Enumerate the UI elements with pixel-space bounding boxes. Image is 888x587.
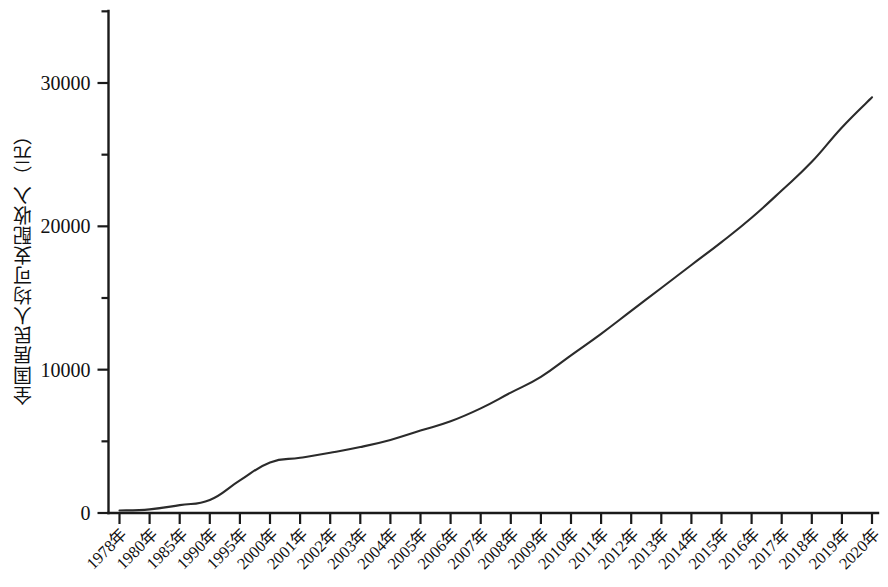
y-tick-label: 30000 (41, 72, 91, 94)
y-axis-ticks (98, 11, 109, 513)
x-axis-ticks (120, 513, 873, 524)
y-axis-tick-labels: 0100002000030000 (41, 72, 91, 524)
line-chart-plot: 0100002000030000 1978年1980年1985年1990年199… (0, 0, 888, 587)
y-tick-label: 10000 (41, 359, 91, 381)
chart-container: 全国居民人均可支配收入（元） 0100002000030000 1978年198… (0, 0, 888, 587)
data-line-series-0 (120, 97, 873, 510)
data-series-group (120, 97, 873, 510)
y-tick-label: 20000 (41, 215, 91, 237)
x-axis-tick-labels: 1978年1980年1985年1990年1995年2000年2001年2002年… (83, 524, 884, 573)
y-tick-label: 0 (81, 502, 91, 524)
axes-group (109, 11, 879, 513)
